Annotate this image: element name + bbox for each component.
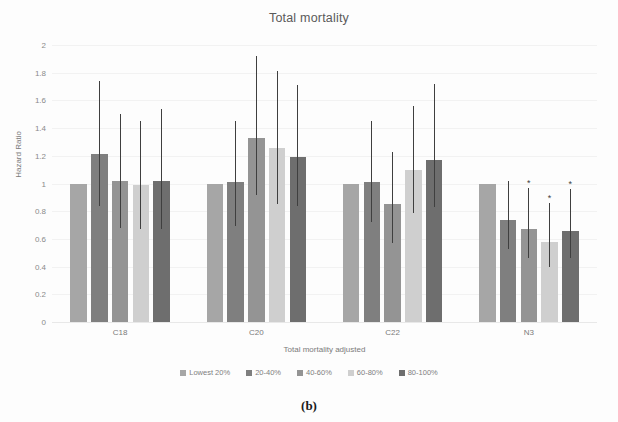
gridline: 0 (52, 322, 597, 323)
significance-asterisk: * (548, 195, 552, 201)
legend-item-label: 80-100% (408, 368, 438, 377)
bar-slot (362, 45, 383, 322)
bar-group-bars (188, 45, 324, 322)
y-axis-title: Hazard Ratio (14, 115, 23, 195)
error-bar (413, 106, 414, 213)
bar-slot (498, 45, 519, 322)
legend-item-label: 40-60% (306, 368, 332, 377)
legend-swatch-icon (246, 370, 252, 376)
error-bar (371, 121, 372, 222)
error-bar (99, 81, 100, 206)
error-bar (549, 203, 550, 267)
error-bar (277, 71, 278, 204)
x-axis-title: Total mortality adjusted (52, 345, 597, 354)
significance-asterisk: * (569, 181, 573, 187)
bar-slot (287, 45, 308, 322)
bar-slot: * (539, 45, 560, 322)
y-axis-tick-label: 2 (42, 41, 46, 50)
figure-caption: (b) (0, 398, 618, 414)
error-bar (256, 56, 257, 195)
error-bar (434, 84, 435, 207)
error-bar (140, 121, 141, 229)
plot-inner: 00.20.40.60.811.21.41.61.82C18C20C22***N… (52, 45, 597, 322)
x-axis-group-label: C18 (52, 328, 188, 337)
error-bar (120, 114, 121, 228)
y-axis-tick-label: 0 (42, 318, 46, 327)
bar-slot (267, 45, 288, 322)
bar-slot (403, 45, 424, 322)
y-axis-tick-label: 1 (42, 179, 46, 188)
error-bar (508, 181, 509, 249)
error-bar (570, 189, 571, 258)
bar-slot (225, 45, 246, 322)
significance-asterisk: * (527, 180, 531, 186)
y-axis-tick-label: 0.6 (35, 234, 46, 243)
bar-slot (341, 45, 362, 322)
bar-group-bars (325, 45, 461, 322)
legend-item[interactable]: 20-40% (246, 368, 281, 377)
bar-slot (68, 45, 89, 322)
error-bar (392, 152, 393, 243)
y-axis-tick-label: 0.2 (35, 290, 46, 299)
legend-item[interactable]: 60-80% (348, 368, 383, 377)
y-axis-tick-label: 0.4 (35, 262, 46, 271)
y-axis-tick-label: 1.8 (35, 68, 46, 77)
bar-slot (89, 45, 110, 322)
legend-swatch-icon (348, 370, 354, 376)
bar-slot (110, 45, 131, 322)
bar-group: C18 (52, 45, 188, 322)
legend-swatch-icon (297, 370, 303, 376)
x-axis-group-label: C22 (325, 328, 461, 337)
bar-slot (477, 45, 498, 322)
chart-title: Total mortality (0, 11, 618, 25)
bar-group-bars (52, 45, 188, 322)
bar-slot (151, 45, 172, 322)
bar-slot: * (519, 45, 540, 322)
bar[interactable] (479, 184, 496, 323)
figure-container: Total mortality Hazard Ratio 00.20.40.60… (0, 0, 618, 422)
bar[interactable] (207, 184, 224, 323)
legend-item-label: 20-40% (255, 368, 281, 377)
legend-item[interactable]: Lowest 20% (180, 368, 230, 377)
x-axis-group-label: C20 (188, 328, 324, 337)
error-bar (161, 109, 162, 229)
error-bar (297, 85, 298, 205)
bar-slot (382, 45, 403, 322)
bar-slot (424, 45, 445, 322)
legend-item[interactable]: 80-100% (399, 368, 438, 377)
bar[interactable] (343, 184, 360, 323)
chart-legend: Lowest 20%20-40%40-60%60-80%80-100% (0, 368, 618, 377)
bar-slot: * (560, 45, 581, 322)
bar-group: ***N3 (461, 45, 597, 322)
bar-slot (246, 45, 267, 322)
plot-area: 00.20.40.60.811.21.41.61.82C18C20C22***N… (52, 45, 597, 322)
legend-swatch-icon (399, 370, 405, 376)
legend-item-label: Lowest 20% (189, 368, 230, 377)
bar-group: C22 (325, 45, 461, 322)
bar-slot (205, 45, 226, 322)
y-axis-tick-label: 1.4 (35, 124, 46, 133)
error-bar (235, 121, 236, 226)
legend-item[interactable]: 40-60% (297, 368, 332, 377)
bar[interactable] (70, 184, 87, 323)
y-axis-tick-label: 1.2 (35, 151, 46, 160)
y-axis-tick-label: 1.6 (35, 96, 46, 105)
legend-swatch-icon (180, 370, 186, 376)
bar-group: C20 (188, 45, 324, 322)
bar-group-bars: *** (461, 45, 597, 322)
x-axis-group-label: N3 (461, 328, 597, 337)
y-axis-tick-label: 0.8 (35, 207, 46, 216)
error-bar (528, 188, 529, 259)
bar-slot (130, 45, 151, 322)
legend-item-label: 60-80% (357, 368, 383, 377)
